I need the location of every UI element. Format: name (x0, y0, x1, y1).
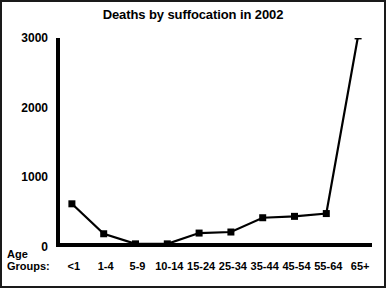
x-axis-tick-label: 65+ (351, 260, 370, 273)
data-point-marker (323, 210, 330, 217)
data-point-marker (196, 230, 203, 237)
x-axis-tick-label: 45-54 (282, 260, 310, 273)
axis-caption-line2: Groups: (7, 260, 50, 272)
series-markers (68, 38, 361, 247)
data-point-marker (291, 213, 298, 220)
chart-title: Deaths by suffocation in 2002 (2, 7, 384, 22)
x-axis-tick-label: 55-64 (314, 260, 342, 273)
data-point-marker (100, 230, 107, 237)
plot-area (58, 38, 376, 247)
x-axis-tick-label: 35-44 (251, 260, 279, 273)
axis-caption: Age Groups: (7, 248, 50, 272)
x-axis-tick-label: 1-4 (98, 260, 114, 273)
data-point-marker (259, 214, 266, 221)
x-axis-tick-label: 15-24 (187, 260, 215, 273)
y-axis-tick-label: 1000 (4, 171, 48, 183)
x-axis-tick-label: <1 (68, 260, 81, 273)
data-point-marker (164, 240, 171, 247)
data-point-marker (355, 38, 362, 39)
x-axis-tick-labels: <11-45-910-1415-2425-3435-4445-5455-6465… (58, 260, 374, 274)
chart-frame: Deaths by suffocation in 2002 0100020003… (0, 0, 386, 288)
x-axis-tick-label: 5-9 (130, 260, 146, 273)
line-series-svg (58, 38, 376, 247)
y-axis-tick-label: 2000 (4, 102, 48, 114)
data-point-marker (227, 229, 234, 236)
axis-caption-line1: Age (7, 248, 50, 260)
x-axis-tick-label: 25-34 (219, 260, 247, 273)
y-axis-tick-label: 3000 (4, 32, 48, 44)
data-point-marker (132, 240, 139, 247)
data-point-marker (68, 200, 75, 207)
x-axis-tick-label: 10-14 (155, 260, 183, 273)
series-line (72, 38, 358, 244)
